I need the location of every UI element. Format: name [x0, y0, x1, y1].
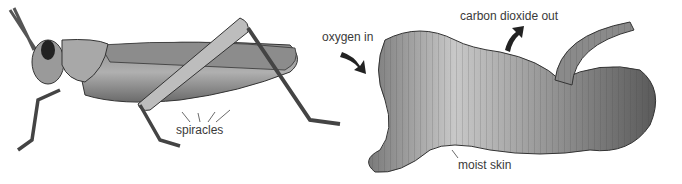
moist-skin-label: moist skin: [458, 158, 511, 172]
oxygen-in-arrow-icon: [340, 52, 366, 74]
carbon-dioxide-out-arrow-icon: [505, 26, 524, 52]
spiracles-label: spiracles: [176, 123, 223, 137]
carbon-dioxide-out-label: carbon dioxide out: [460, 9, 558, 23]
grasshopper-illustration: [10, 8, 340, 150]
oxygen-in-label: oxygen in: [322, 30, 373, 44]
diagram-canvas: [0, 0, 682, 184]
